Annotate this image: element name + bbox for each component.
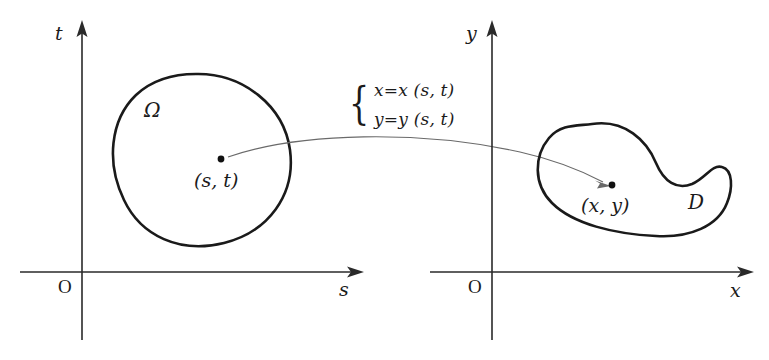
point-st-label: (s, t) [194, 171, 238, 190]
point-st-dot [218, 156, 225, 163]
left-horizontal-axis-label: s [339, 280, 349, 299]
point-xy-label: (x, y) [581, 196, 629, 215]
diagram-canvas [0, 0, 769, 360]
region-d-label: D [688, 192, 704, 212]
point-xy-dot [609, 182, 616, 189]
left-origin-label: O [58, 277, 72, 296]
right-horizontal-axis-label: x [730, 281, 741, 300]
mapping-arrow-curve [228, 137, 603, 182]
region-omega-outline [113, 74, 291, 246]
equation-rows: x=x (s, t) y=y (s, t) [374, 80, 454, 129]
region-omega-label: Ω [144, 100, 161, 120]
equation-brace: { [349, 86, 369, 122]
right-vertical-axis-label: y [466, 24, 477, 43]
transformation-diagram: t s O Ω (s, t) y x O D (x, y) { x=x (s, … [0, 0, 769, 360]
region-d-outline [538, 123, 731, 236]
left-vertical-axis-label: t [55, 24, 63, 43]
equation-x: x=x (s, t) [374, 80, 454, 100]
equation-y: y=y (s, t) [374, 109, 454, 129]
right-origin-label: O [468, 277, 482, 296]
mapping-equation-system: { x=x (s, t) y=y (s, t) [345, 80, 454, 129]
